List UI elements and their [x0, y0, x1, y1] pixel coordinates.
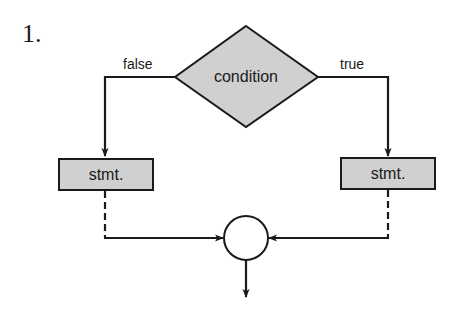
join-circle: [224, 216, 268, 260]
stmt-true-label: stmt.: [371, 165, 406, 182]
false-branch-connector: [105, 77, 175, 156]
condition-label: condition: [214, 68, 278, 85]
false-branch-label: false: [123, 56, 153, 72]
true-branch-label: true: [340, 56, 364, 72]
true-branch-connector: [318, 77, 388, 156]
figure-number: 1.: [22, 19, 42, 48]
flowchart-if-else: 1. false true condition stmt. stmt.: [0, 0, 455, 314]
stmt-false-label: stmt.: [89, 166, 124, 183]
